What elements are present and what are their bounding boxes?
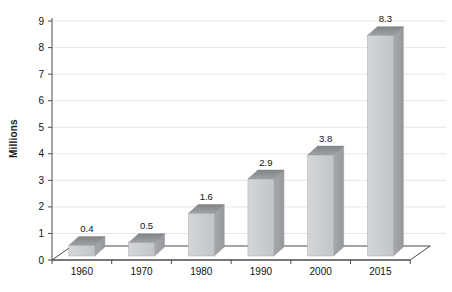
- x-category-label: 1960: [71, 266, 94, 277]
- y-tick-label: 1: [38, 228, 44, 239]
- bar-side-face: [393, 27, 403, 256]
- bar-data-label: 3.8: [319, 133, 332, 144]
- chart-canvas: 0.40.51.62.93.88.30123456789196019701980…: [0, 0, 452, 292]
- bar-front-face: [69, 245, 95, 256]
- bar-data-label: 0.5: [140, 220, 153, 231]
- bar-data-label: 1.6: [200, 191, 213, 202]
- x-category-label: 1970: [130, 266, 153, 277]
- bar-front-face: [188, 214, 214, 256]
- x-category-label: 2000: [310, 266, 333, 277]
- y-tick-label: 8: [38, 42, 44, 53]
- bar-front-face: [129, 243, 155, 256]
- x-category-label: 1990: [250, 266, 273, 277]
- bar-front-face: [367, 36, 393, 256]
- y-tick-label: 2: [38, 201, 44, 212]
- bar-1980: [188, 205, 224, 256]
- bar-front-face: [248, 179, 274, 256]
- bar-front-face: [308, 155, 334, 256]
- bar-data-label: 2.9: [259, 157, 272, 168]
- y-tick-label: 6: [38, 95, 44, 106]
- y-axis-title: Millions: [6, 98, 20, 180]
- y-tick-label: 3: [38, 175, 44, 186]
- x-category-label: 1980: [190, 266, 213, 277]
- bar-side-face: [334, 146, 344, 256]
- y-tick-label: 7: [38, 69, 44, 80]
- y-tick-label: 9: [38, 16, 44, 27]
- y-tick-label: 0: [38, 255, 44, 266]
- bar-data-label: 8.3: [379, 13, 392, 24]
- x-category-label: 2015: [369, 266, 392, 277]
- bar-side-face: [274, 170, 284, 256]
- bar-2015: [367, 27, 403, 256]
- bar-2000: [308, 146, 344, 256]
- bar-1990: [248, 170, 284, 256]
- bar-data-label: 0.4: [80, 223, 93, 234]
- y-tick-label: 5: [38, 122, 44, 133]
- y-tick-label: 4: [38, 148, 44, 159]
- bar-chart: 0.40.51.62.93.88.30123456789196019701980…: [0, 0, 452, 292]
